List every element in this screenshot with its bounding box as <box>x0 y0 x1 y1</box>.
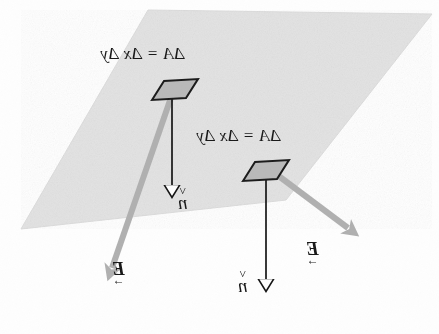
normal-hat-accent-2: ^ <box>238 271 248 275</box>
diagram-svg <box>0 0 439 334</box>
efield-label-1: E → <box>112 258 125 283</box>
efield-vector-accent-2: → <box>306 257 319 263</box>
delta-area-label-1: ΔA = Δx Δy <box>100 44 184 64</box>
normal-label-1: ^ n <box>178 189 188 214</box>
figure-canvas: ΔA = Δx Δy ΔA = Δx Δy ^ n ^ n E → E → <box>0 0 439 334</box>
normal-label-2: ^ n <box>238 272 248 297</box>
delta-area-label-2: ΔA = Δx Δy <box>196 126 280 146</box>
delta-area-text-2: ΔA = Δx Δy <box>196 126 280 145</box>
normal-hat-accent-1: ^ <box>178 188 188 192</box>
plane-grain <box>21 10 432 229</box>
delta-area-text-1: ΔA = Δx Δy <box>100 44 184 63</box>
efield-vector-accent-1: → <box>112 277 125 283</box>
efield-label-2: E → <box>306 238 319 263</box>
